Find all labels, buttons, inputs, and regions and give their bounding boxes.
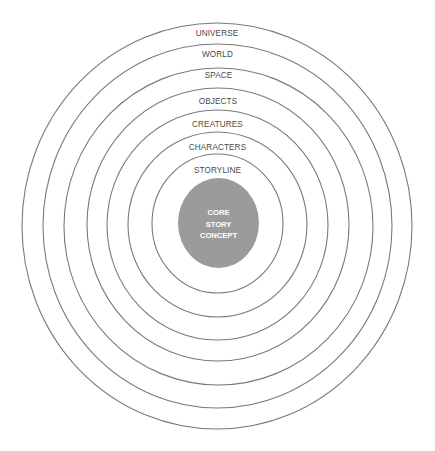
concentric-layers-diagram: CORESTORYCONCEPT UNIVERSEWORLDSPACEOBJEC…	[0, 0, 435, 451]
ring-label-characters: CHARACTERS	[189, 143, 247, 152]
core-label-line: CORE	[208, 208, 230, 217]
ring-label-world: WORLD	[202, 50, 233, 59]
core-story-concept: CORESTORYCONCEPT	[178, 178, 259, 268]
core-label-line: CONCEPT	[200, 231, 237, 240]
ring-label-storyline: STORYLINE	[194, 166, 241, 175]
ring-label-objects: OBJECTS	[199, 97, 238, 106]
ring-label-universe: UNIVERSE	[196, 29, 239, 38]
ring-label-creatures: CREATURES	[192, 120, 243, 129]
ring-label-space: SPACE	[205, 71, 233, 80]
core-label-line: STORY	[206, 220, 232, 229]
